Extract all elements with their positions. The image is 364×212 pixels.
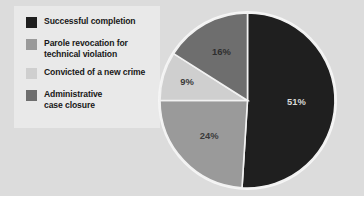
pie-svg: 51% 24% 9% 16% [157, 10, 338, 191]
pie-slice-parole-revocation[interactable] [160, 101, 248, 188]
legend-swatch-administrative-case-closure [26, 90, 37, 101]
chart-legend: Successful completion Parole revocation … [14, 6, 160, 128]
pie-graphic: 51% 24% 9% 16% [157, 10, 338, 191]
legend-label-convicted-new-crime: Convicted of a new crime [44, 67, 145, 78]
legend-label-administrative-case-closure: Administrative case closure [44, 89, 102, 110]
page-bottom-strip [0, 196, 364, 212]
legend-item-successful-completion[interactable]: Successful completion [26, 16, 136, 28]
legend-item-convicted-new-crime[interactable]: Convicted of a new crime [26, 67, 145, 79]
legend-label-parole-revocation: Parole revocation for technical violatio… [44, 38, 128, 59]
legend-swatch-convicted-new-crime [26, 68, 37, 79]
legend-item-administrative-case-closure[interactable]: Administrative case closure [26, 89, 102, 110]
legend-swatch-successful-completion [26, 17, 37, 28]
legend-label-successful-completion: Successful completion [44, 16, 136, 27]
pie-slice-label-16: 16% [212, 46, 231, 57]
legend-item-parole-revocation[interactable]: Parole revocation for technical violatio… [26, 38, 128, 59]
pie-slice-label-9: 9% [180, 76, 194, 87]
pie-slice-label-24: 24% [200, 130, 219, 141]
pie-chart-figure: Successful completion Parole revocation … [0, 0, 364, 212]
pie-slice-label-51: 51% [287, 96, 306, 107]
legend-swatch-parole-revocation [26, 39, 37, 50]
